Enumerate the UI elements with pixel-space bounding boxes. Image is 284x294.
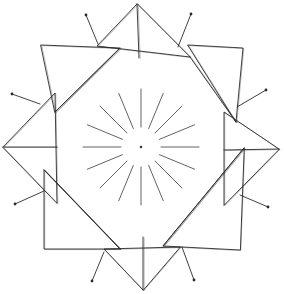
center-dot-icon xyxy=(140,146,142,148)
spoke-line xyxy=(100,106,127,133)
spoke-line xyxy=(160,125,195,140)
antenna-line xyxy=(12,94,40,104)
antenna-dot-icon xyxy=(14,203,17,206)
spoke-line xyxy=(155,106,182,133)
antenna-dot-icon xyxy=(265,89,268,92)
antenna-line xyxy=(237,90,266,107)
antenna-dot-icon xyxy=(193,279,196,282)
spoke-line xyxy=(149,166,164,201)
spoke-line xyxy=(87,155,122,170)
triangle-top-right xyxy=(188,45,244,123)
antenna-line xyxy=(92,252,104,281)
triangle-bottom xyxy=(104,237,181,291)
antenna-dot-icon xyxy=(91,280,94,283)
spoke-line xyxy=(119,166,134,201)
triangle-top-left xyxy=(41,45,121,113)
antenna-dot-icon xyxy=(267,206,270,209)
triangle-right xyxy=(224,112,280,206)
spoke-line xyxy=(155,161,182,188)
antenna-dot-icon xyxy=(190,13,193,16)
antenna-line xyxy=(15,191,44,204)
spoke-line xyxy=(149,93,164,128)
antenna-line xyxy=(182,247,194,280)
triangle-bottom-left xyxy=(44,170,121,250)
antenna-line xyxy=(178,14,191,47)
triangle-bottom-right xyxy=(163,148,245,251)
antenna-line xyxy=(240,195,268,207)
spoke-line xyxy=(119,93,134,128)
spoke-line xyxy=(100,161,127,188)
antenna-dot-icon xyxy=(11,93,14,96)
antenna-dot-icon xyxy=(85,14,88,17)
spoke-line xyxy=(87,125,122,140)
triangle-left xyxy=(3,93,58,204)
radial-star-drawing xyxy=(0,0,284,294)
triangle-top xyxy=(97,4,191,59)
antenna-line xyxy=(86,15,98,44)
spoke-line xyxy=(160,155,195,170)
artwork-canvas: Radial star line drawing xyxy=(0,0,284,294)
